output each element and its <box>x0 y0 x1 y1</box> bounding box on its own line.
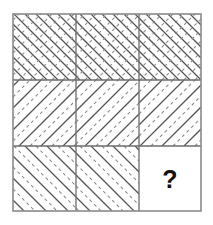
question-mark: ? <box>162 165 177 193</box>
cell-r1c3 <box>139 14 201 80</box>
cell-r3c2 <box>76 146 139 211</box>
cell-r1c1 <box>13 14 76 80</box>
matrix-puzzle: ? <box>0 0 213 225</box>
cell-r2c3 <box>139 80 201 146</box>
cell-r2c1 <box>13 80 76 146</box>
cell-r3c1 <box>13 146 76 211</box>
matrix-grid: ? <box>0 0 213 225</box>
cell-r2c2 <box>76 80 139 146</box>
cell-r1c2 <box>76 14 139 80</box>
